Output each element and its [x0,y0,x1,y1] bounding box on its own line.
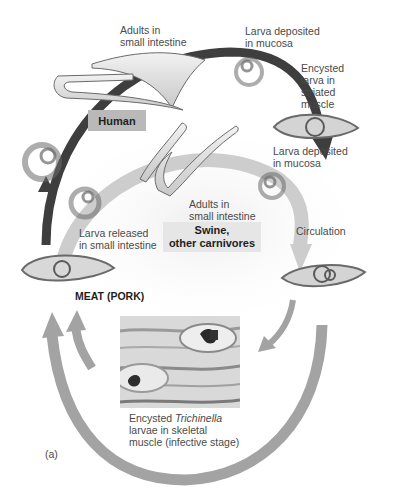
host-box-swine: Swine, other carnivores [163,222,261,252]
host-label-swine-1: Swine, [195,224,230,237]
label-larva-mucosa-mid: Larva deposited in mucosa [273,145,348,169]
micrograph-encysted-larvae [120,316,240,408]
label-line: Encysted [301,62,344,74]
caption-line-2: larvae in skeletal [129,424,239,436]
host-label-human: Human [98,115,135,127]
label-larva-released: Larva released in small intestine [79,227,157,251]
label-larva-mucosa-top: Larva deposited in mucosa [245,25,320,49]
label-line: Adults in [120,24,187,36]
label-line: Adults in [189,198,256,210]
label-line: in mucosa [245,37,320,49]
outer-arrowhead-left [42,312,64,338]
label-line: Larva deposited [273,145,348,157]
caption-text: Encysted [129,412,175,424]
label-adults-human: Adults in small intestine [120,24,187,48]
label-line: Larva deposited [245,25,320,37]
host-label-swine-2: other carnivores [169,237,255,250]
label-meat-pork: MEAT (PORK) [75,290,144,302]
label-circulation: Circulation [296,225,346,237]
label-line: in mucosa [273,157,348,169]
cyst-striated-muscle [274,115,358,138]
circulation-down-arrow [268,300,293,345]
label-line: muscle [301,98,344,110]
label-encysted-striated: Encysted larva in striated muscle [301,62,344,110]
inner-arrowhead [66,310,86,332]
larva-coil-human-left [25,145,59,179]
larva-coil-mucosa-top [236,59,262,85]
caption-genus: Trichinella [175,412,222,424]
label-line: striated [301,86,344,98]
label-line: larva in [301,74,344,86]
inner-return-arrow [76,330,92,368]
label-line: in small intestine [79,239,157,251]
host-box-human: Human [88,110,146,131]
figure-label: (a) [45,448,58,460]
label-adults-swine: Adults in small intestine [189,198,256,222]
label-line: small intestine [120,36,187,48]
label-line: Larva released [79,227,157,239]
caption-line-3: muscle (infective stage) [129,436,239,448]
caption-line-1: Encysted Trichinella [129,412,239,424]
micrograph-image [120,316,240,408]
caption-micrograph: Encysted Trichinella larvae in skeletal … [129,412,239,448]
label-line: small intestine [189,210,256,222]
